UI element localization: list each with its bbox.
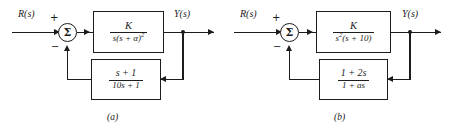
output-signal-label-a: Y(s) xyxy=(174,9,190,19)
forward-transfer-function-b: K s2(s + 10) xyxy=(333,20,375,43)
feedback-takeoff-vertical-a xyxy=(182,32,183,80)
input-wire-b xyxy=(234,32,279,33)
error-arrow-b xyxy=(307,29,313,35)
summing-junction-a: Σ xyxy=(58,23,77,42)
summing-junction-b: Σ xyxy=(280,23,299,42)
input-signal-label-a: R(s) xyxy=(18,9,35,19)
output-signal-label-b: Y(s) xyxy=(402,9,418,19)
plus-sign-a: + xyxy=(50,13,58,23)
forward-denominator-exponent-a: 2 xyxy=(141,31,144,38)
block-diagram-panel-b: R(s) Σ + − K s2(s + 10) Y(s) xyxy=(224,0,449,130)
feedback-transfer-function-block-b: 1 + 2s 1 + as xyxy=(319,59,388,100)
input-signal-label-b: R(s) xyxy=(240,9,257,19)
forward-denominator-a: s(s + α)2 xyxy=(110,32,148,43)
error-arrow-a xyxy=(84,29,90,35)
feedback-takeoff-vertical-b xyxy=(409,32,410,80)
block-diagram-figure: R(s) Σ + − K s(s + α)2 Y(s) xyxy=(0,0,449,130)
sigma-icon: Σ xyxy=(286,27,294,38)
output-wire-b xyxy=(391,32,441,33)
forward-transfer-function-a: K s(s + α)2 xyxy=(110,20,148,43)
block-diagram-panel-a: R(s) Σ + − K s(s + α)2 Y(s) xyxy=(0,0,225,130)
forward-denominator-b: s2(s + 10) xyxy=(333,32,375,43)
feedback-vertical-a xyxy=(67,50,68,80)
sigma-icon: Σ xyxy=(64,27,72,38)
forward-denominator-base-a: s(s + α) xyxy=(113,33,141,43)
feedback-transfer-function-a: s + 1 10s + 1 xyxy=(109,68,143,91)
output-wire-a xyxy=(164,32,214,33)
input-wire-a xyxy=(12,32,57,33)
feedback-transfer-function-b: 1 + 2s 1 + as xyxy=(338,68,370,91)
plus-sign-b: + xyxy=(272,13,280,23)
feedback-into-summer-arrow-a xyxy=(64,45,70,51)
feedback-wire-left-a xyxy=(67,79,92,80)
panel-caption-a: (a) xyxy=(107,113,118,123)
output-arrow-a xyxy=(208,29,214,35)
panel-caption-b: (b) xyxy=(334,113,345,123)
feedback-numerator-a: s + 1 xyxy=(109,68,143,79)
feedback-into-summer-arrow-b xyxy=(286,45,292,51)
feedback-denominator-a: 10s + 1 xyxy=(109,80,143,91)
feedback-numerator-b: 1 + 2s xyxy=(338,68,370,79)
forward-transfer-function-block-b: K s2(s + 10) xyxy=(316,11,391,53)
feedback-denominator-b: 1 + as xyxy=(338,80,370,91)
forward-denominator-tail-b: (s + 10) xyxy=(342,33,371,43)
minus-sign-a: − xyxy=(51,42,59,52)
feedback-wire-left-b xyxy=(289,79,320,80)
feedback-transfer-function-block-a: s + 1 10s + 1 xyxy=(91,59,161,100)
forward-transfer-function-block-a: K s(s + α)2 xyxy=(93,11,164,53)
minus-sign-b: − xyxy=(273,42,281,52)
feedback-vertical-b xyxy=(289,50,290,80)
output-arrow-b xyxy=(435,29,441,35)
